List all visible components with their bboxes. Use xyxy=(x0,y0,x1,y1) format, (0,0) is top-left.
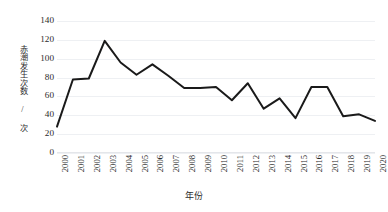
gridline xyxy=(57,153,375,154)
x-tick-label: 2011 xyxy=(236,155,245,172)
chart-figure: 赤潮发生次数 / 次 020406080100120140 2000200120… xyxy=(0,0,388,212)
x-tick-label: 2007 xyxy=(172,155,181,172)
y-tick-label: 20 xyxy=(45,130,54,139)
y-axis-tick-labels: 020406080100120140 xyxy=(28,15,54,157)
figure-caption: ······· xyxy=(0,204,388,212)
x-tick-label: 2000 xyxy=(61,155,70,172)
y-tick-label: 120 xyxy=(40,35,54,44)
y-tick-label: 60 xyxy=(45,92,54,101)
x-tick-label: 2006 xyxy=(156,155,165,172)
x-tick-label: 2015 xyxy=(300,155,309,172)
y-tick-label: 0 xyxy=(49,148,54,157)
line-series-red-tide-occurrences xyxy=(57,21,375,153)
x-tick-label: 2008 xyxy=(188,155,197,172)
series-line xyxy=(57,41,375,127)
x-tick-label: 2002 xyxy=(93,155,102,172)
x-tick-label: 2009 xyxy=(204,155,213,172)
plot-area xyxy=(57,21,375,153)
x-tick-label: 2005 xyxy=(141,155,150,172)
x-tick-label: 2004 xyxy=(125,155,134,172)
x-tick-label: 2014 xyxy=(284,155,293,172)
x-tick-label: 2013 xyxy=(268,155,277,172)
x-axis-tick-labels: 2000200120022003200420052006200720082009… xyxy=(57,155,375,189)
x-tick-label: 2020 xyxy=(379,155,388,172)
x-axis-title: 年份 xyxy=(0,189,388,202)
y-tick-label: 40 xyxy=(45,111,54,120)
x-tick-label: 2012 xyxy=(252,155,261,172)
x-tick-label: 2016 xyxy=(315,155,324,172)
figure-caption-text: ······· xyxy=(180,211,208,212)
x-tick-label: 2003 xyxy=(109,155,118,172)
x-tick-label: 2018 xyxy=(347,155,356,172)
y-tick-label: 100 xyxy=(40,54,54,63)
x-tick-label: 2001 xyxy=(77,155,86,172)
x-tick-label: 2019 xyxy=(363,155,372,172)
y-tick-label: 140 xyxy=(40,16,54,25)
x-tick-label: 2010 xyxy=(220,155,229,172)
y-tick-label: 80 xyxy=(45,73,54,82)
x-tick-label: 2017 xyxy=(331,155,340,172)
